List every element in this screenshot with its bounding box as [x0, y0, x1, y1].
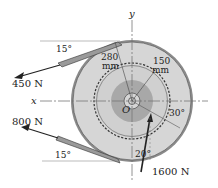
- force-800-label: 800 N: [12, 116, 43, 127]
- force-1600-label: 1600 N: [152, 166, 190, 177]
- force-450-label: 450 N: [12, 78, 43, 89]
- y-axis-label: y: [128, 8, 135, 19]
- radius-280-unit: mm: [102, 61, 120, 71]
- center-label: O: [122, 104, 130, 115]
- angle-20-label: 20°: [135, 149, 151, 159]
- x-axis-label: x: [31, 95, 37, 106]
- radius-150-unit: mm: [152, 65, 170, 75]
- bottom-angle-label: 15°: [55, 150, 71, 160]
- top-angle-label: 15°: [56, 44, 72, 54]
- force-450-arrow: [14, 65, 60, 79]
- pulley-diagram: y x O 280 mm 150 mm 15° 15° 30° 20° 450 …: [0, 0, 218, 188]
- angle-30-label: 30°: [169, 108, 185, 118]
